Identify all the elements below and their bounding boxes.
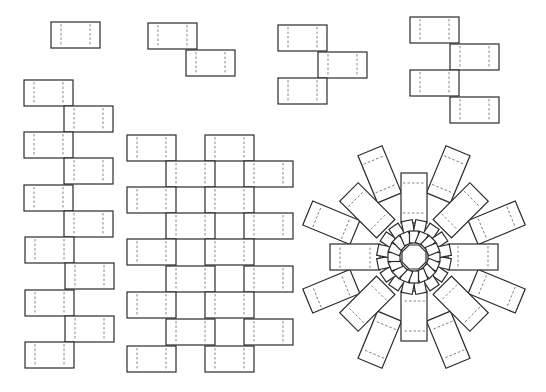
unit-rectangle — [25, 237, 74, 263]
unit-rectangle — [205, 239, 254, 265]
unit-rectangle — [205, 292, 254, 318]
unit-rectangle — [278, 25, 327, 51]
radial-arm — [448, 244, 498, 270]
chain-2 — [148, 23, 235, 76]
unit-rectangle — [24, 185, 73, 211]
middle-grid — [127, 135, 293, 372]
unit-rectangle — [127, 187, 176, 213]
center-octagon — [402, 245, 426, 269]
chain-3 — [278, 25, 367, 104]
unit-rectangle — [127, 292, 176, 318]
unit-rectangle — [127, 135, 176, 161]
unit-rectangle — [318, 52, 367, 78]
unit-rectangle — [65, 263, 114, 289]
unit-rectangle — [148, 23, 197, 49]
radial-arm — [401, 291, 427, 341]
unit-rectangle — [127, 239, 176, 265]
unit-rectangle — [278, 78, 327, 104]
unit-rectangle — [244, 319, 293, 345]
radial-arm — [401, 173, 427, 223]
unit-rectangle — [244, 213, 293, 239]
radial-arm — [330, 244, 380, 270]
unit-rectangle — [127, 346, 176, 372]
unit-rectangle — [166, 213, 215, 239]
unit-rectangle — [450, 44, 499, 70]
unit-rectangle — [186, 50, 235, 76]
unit-rectangle — [24, 132, 73, 158]
unit-rectangle — [450, 97, 499, 123]
unit-rectangle — [244, 161, 293, 187]
unit-rectangle — [410, 70, 459, 96]
unit-rectangle — [64, 158, 113, 184]
unit-rectangle — [166, 161, 215, 187]
unit-rectangle — [166, 266, 215, 292]
unit-rectangle — [205, 346, 254, 372]
figure-canvas — [0, 0, 546, 392]
chain-4 — [410, 17, 499, 123]
unit-rectangle — [24, 80, 73, 106]
unit-rectangle — [205, 187, 254, 213]
unit-rectangle — [25, 290, 74, 316]
unit-rectangle — [25, 342, 74, 368]
unit-rectangle — [65, 316, 114, 342]
rectangle-chains — [24, 17, 499, 372]
unit-rectangle — [64, 211, 113, 237]
unit-rectangle — [51, 22, 100, 48]
unit-rectangle — [244, 266, 293, 292]
unit-rectangle — [64, 106, 113, 132]
chain-1 — [51, 22, 100, 48]
left-column — [24, 80, 114, 368]
unit-rectangle — [205, 135, 254, 161]
radial-star-net — [303, 146, 525, 368]
unit-rectangle — [166, 319, 215, 345]
unit-rectangle — [410, 17, 459, 43]
